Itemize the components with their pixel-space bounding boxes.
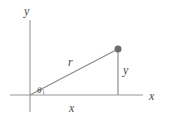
vertical-leg-label: y — [123, 64, 128, 76]
point-marker-icon — [115, 46, 122, 53]
theta-angle-label: θ — [37, 86, 41, 95]
diagram-canvas — [0, 0, 169, 121]
x-axis-label: x — [149, 90, 154, 102]
coordinate-triangle-figure: y x r y x θ — [0, 0, 169, 121]
hypotenuse-segment — [30, 49, 118, 95]
hypotenuse-label: r — [68, 56, 73, 68]
theta-angle-arc — [42, 89, 44, 95]
y-axis-label: y — [24, 5, 29, 17]
horizontal-leg-label: x — [69, 102, 74, 114]
